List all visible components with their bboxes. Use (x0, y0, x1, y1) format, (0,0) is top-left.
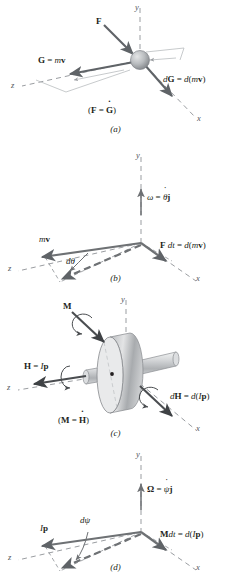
construction-line-upper-tick (180, 48, 184, 60)
spin-direction-arc (61, 366, 70, 388)
angular-velocity-label: ω = θj (147, 193, 170, 202)
force-label: F (96, 17, 102, 26)
angular-impulse-label: Mdt = d(Ip) (160, 530, 204, 539)
construction-line-lower (36, 80, 66, 92)
panel-d-caption: (d) (0, 562, 231, 572)
momentum-label: G = mv (38, 56, 66, 65)
construction-arrow-upper (150, 58, 176, 60)
construction-line-upper (146, 48, 184, 52)
axis-label-z: z (7, 382, 10, 392)
angle-increment-label: dψ (80, 516, 90, 525)
panel-a-caption: (a) (0, 124, 231, 134)
rotor-disk-face (97, 337, 123, 413)
axis-label-x: x (197, 113, 201, 123)
axis-label-y: y (135, 2, 139, 12)
axis-z-line (18, 243, 141, 271)
momentum-differential-label: dG = d(mv) (163, 75, 206, 84)
axis-label-y: y (136, 150, 140, 160)
moment-vector-arrow (72, 312, 104, 342)
force-momentum-relation-label: (F = G) (88, 106, 116, 115)
moment-label: M (63, 302, 72, 311)
panel-a-linear-momentum: y z x F G = mv dG = d(mv) (F = G) (a) (0, 0, 231, 145)
panel-b-graphic (0, 145, 231, 290)
moment-relation-label: (M = H) (58, 416, 89, 425)
panel-d-graphic (0, 440, 231, 581)
angular-momentum-label: Ip (40, 524, 48, 533)
rotor-shaft-right-cap (173, 352, 179, 366)
axis-label-y: y (136, 449, 140, 459)
angular-momentum-differential-label: dH = d(Ip) (170, 392, 210, 401)
momentum-label: mv (39, 235, 50, 244)
angle-increment-label: dθ (66, 257, 75, 266)
panel-b-caption: (b) (0, 273, 231, 283)
axis-label-y: y (121, 294, 125, 304)
panel-c-caption: (c) (0, 428, 231, 438)
axis-label-z: z (11, 80, 14, 90)
angular-momentum-label: H = Ip (24, 362, 49, 371)
particle-sphere (131, 51, 150, 70)
rotor-center-point (110, 372, 114, 376)
precession-label: Ω = ψj (147, 485, 172, 494)
impulse-label: F dt = d(mv) (160, 241, 206, 250)
moment-direction-arc (72, 314, 92, 334)
axis-label-z: z (8, 552, 11, 562)
axis-label-z: z (8, 263, 11, 273)
panel-c-angular-momentum: y z x M H = Ip dH = d(Ip) (M = H) (c) (0, 290, 231, 440)
force-vector-arrow (104, 25, 133, 54)
panel-b-angular-velocity: y z x ω = θj mv dθ F dt = d(mv) (b) (0, 145, 231, 290)
angular-momentum-differential-arrow (140, 386, 172, 416)
panel-d-precession: y z x Ω = ψj Ip dψ Mdt = d(Ip) (d) (0, 440, 231, 581)
